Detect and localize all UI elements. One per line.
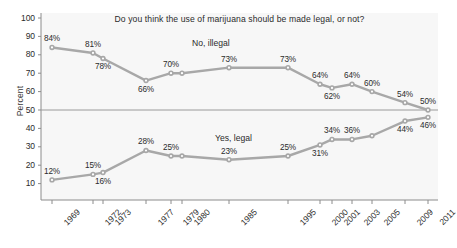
data-point-marker	[101, 57, 105, 61]
y-axis-tick-label: 60	[3, 86, 35, 96]
data-point-label: 23%	[221, 147, 237, 156]
data-point-label: 84%	[44, 34, 60, 43]
data-point-label: 64%	[312, 71, 328, 80]
data-point-label: 46%	[420, 121, 436, 130]
data-point-marker	[403, 119, 407, 123]
y-axis-tick-label: 100	[3, 13, 35, 23]
data-point-label: 12%	[44, 167, 60, 176]
y-axis-tick-label: 20	[3, 160, 35, 170]
data-point-label: 44%	[397, 125, 413, 134]
data-point-label: 70%	[163, 60, 179, 69]
data-point-label: 28%	[138, 137, 154, 146]
data-point-marker	[318, 143, 322, 147]
data-point-marker	[350, 138, 354, 142]
data-point-marker	[350, 82, 354, 86]
data-point-label: 81%	[85, 40, 101, 49]
data-point-label: 54%	[397, 90, 413, 99]
y-axis-tick-label: 50	[3, 105, 35, 115]
data-point-marker	[91, 51, 95, 55]
data-point-marker	[330, 86, 334, 90]
data-point-marker	[169, 154, 173, 158]
y-axis-tick-label: 30	[3, 141, 35, 151]
y-axis-tick-label: 40	[3, 123, 35, 133]
data-point-marker	[426, 108, 430, 112]
data-point-marker	[318, 82, 322, 86]
data-point-label: 16%	[95, 177, 111, 186]
data-point-label: 36%	[344, 126, 360, 135]
data-point-label: 34%	[324, 126, 340, 135]
data-point-marker	[370, 134, 374, 138]
data-point-label: 25%	[163, 143, 179, 152]
data-point-marker	[144, 149, 148, 153]
y-axis-tick-label: 10	[3, 178, 35, 188]
data-point-marker	[144, 79, 148, 83]
data-point-marker	[101, 171, 105, 175]
data-point-marker	[403, 101, 407, 105]
series-line-yes-legal	[52, 117, 428, 180]
data-point-label: 64%	[344, 71, 360, 80]
data-point-marker	[330, 138, 334, 142]
data-point-marker	[286, 66, 290, 70]
data-point-label: 60%	[364, 79, 380, 88]
data-point-marker	[50, 46, 54, 50]
y-axis-tick-label: 80	[3, 49, 35, 59]
data-point-marker	[180, 71, 184, 75]
data-point-marker	[50, 178, 54, 182]
data-point-label: 62%	[324, 92, 340, 101]
data-point-label: 73%	[221, 55, 237, 64]
data-point-label: 66%	[138, 85, 154, 94]
data-point-marker	[426, 115, 430, 119]
data-point-label: 31%	[312, 149, 328, 158]
data-point-label: 78%	[95, 62, 111, 71]
data-point-marker	[227, 66, 231, 70]
data-point-label: 25%	[280, 143, 296, 152]
y-axis-tick-label: 70	[3, 68, 35, 78]
data-point-label: 15%	[85, 161, 101, 170]
data-point-label: 50%	[420, 97, 436, 106]
data-point-marker	[227, 158, 231, 162]
data-point-label: 73%	[280, 55, 296, 64]
data-point-marker	[180, 154, 184, 158]
y-axis-tick-label: 90	[3, 31, 35, 41]
data-point-marker	[286, 154, 290, 158]
data-point-marker	[169, 71, 173, 75]
data-point-marker	[370, 90, 374, 94]
